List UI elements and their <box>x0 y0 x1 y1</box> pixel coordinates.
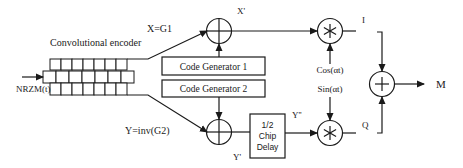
q-to-sum-line <box>377 97 382 133</box>
delay-label-line1: 1/2 <box>262 120 274 130</box>
delay-label-line3: Delay <box>257 142 279 152</box>
xor-adder-2 <box>207 120 232 145</box>
xor-adder-1 <box>207 19 232 44</box>
y-double-prime-label: Y'' <box>292 110 302 120</box>
summing-junction <box>370 72 395 97</box>
output-label: M <box>436 78 446 90</box>
cos-label: Cos(αt) <box>316 65 343 75</box>
shift-register-top-row <box>50 59 127 70</box>
encoder-label: Convolutional encoder <box>50 37 142 48</box>
sin-label: Sin(αt) <box>317 84 342 94</box>
delay-label-line2: Chip <box>259 131 277 141</box>
shift-register-bottom-row <box>50 83 127 95</box>
x-label: X=G1 <box>147 23 172 34</box>
y-prime-label: Y' <box>233 152 241 162</box>
i-label: I <box>362 15 365 25</box>
shift-register-middle-row <box>43 71 134 83</box>
code-generator-2-label: Code Generator 2 <box>180 84 248 94</box>
x-prime-label: X' <box>237 6 245 16</box>
modulator-block-diagram: Convolutional encoder NRZM(t) X=G1 Y=inv <box>0 0 463 168</box>
input-label: NRZM(t) <box>16 84 51 94</box>
q-label: Q <box>362 120 369 130</box>
code-generator-1-label: Code Generator 1 <box>180 62 248 72</box>
y-label: Y=inv(G2) <box>125 125 170 137</box>
multiplier-2 <box>318 121 343 146</box>
i-to-sum-line <box>377 32 382 71</box>
multiplier-1 <box>318 19 343 44</box>
